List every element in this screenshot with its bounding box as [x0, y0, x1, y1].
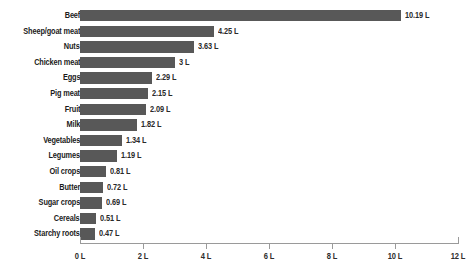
bar [80, 135, 122, 146]
category-label: Butter [59, 180, 80, 197]
bar-value-label: 3.63 L [198, 41, 218, 52]
category-label: Vegetables [43, 133, 80, 150]
bar-track: 4.25 L [80, 26, 458, 37]
bar-row: Eggs2.29 L [0, 70, 476, 86]
x-axis-tick-label: 4 L [201, 251, 212, 261]
bar-track: 0.69 L [80, 197, 458, 208]
bar-row: Oil crops0.81 L [0, 164, 476, 180]
bar-track: 1.34 L [80, 135, 458, 146]
bar [80, 197, 102, 208]
bar [80, 150, 117, 161]
bar [80, 166, 106, 177]
x-axis-tick [458, 237, 459, 244]
x-axis-tick [395, 243, 396, 249]
bar [80, 104, 146, 115]
x-axis-tick-label: 6 L [264, 251, 275, 261]
category-label: Cereals [54, 211, 80, 228]
bar-value-label: 1.82 L [141, 119, 161, 130]
bar-value-label: 2.15 L [152, 88, 172, 99]
bar [80, 213, 96, 224]
x-axis-tick [143, 243, 144, 249]
bar-track: 3.63 L [80, 41, 458, 52]
bar-value-label: 0.72 L [107, 182, 127, 193]
bar-row: Beef10.19 L [0, 8, 476, 24]
bar-value-label: 2.09 L [150, 104, 170, 115]
bar-row: Chicken meat3 L [0, 55, 476, 71]
bar [80, 119, 137, 130]
category-label: Fruit [64, 102, 80, 119]
category-label: Chicken meat [34, 55, 80, 72]
bar-row: Pig meat2.15 L [0, 86, 476, 102]
bar-value-label: 2.29 L [156, 72, 176, 83]
chart-plot-area: Beef10.19 LSheep/goat meat4.25 LNuts3.63… [0, 8, 476, 242]
bar [80, 182, 103, 193]
bar-track: 1.19 L [80, 150, 458, 161]
bar [80, 10, 401, 21]
bar-row: Vegetables1.34 L [0, 133, 476, 149]
x-axis-tick [332, 243, 333, 249]
bar [80, 88, 148, 99]
bar [80, 72, 152, 83]
bar [80, 26, 214, 37]
category-label: Sheep/goat meat [23, 24, 80, 41]
horizontal-bar-chart: Beef10.19 LSheep/goat meat4.25 LNuts3.63… [0, 0, 476, 275]
bar-value-label: 1.34 L [126, 135, 146, 146]
bar-value-label: 4.25 L [218, 26, 238, 37]
category-label: Starchy roots [34, 226, 80, 243]
bar-row: Starchy roots0.47 L [0, 226, 476, 242]
x-axis-tick [206, 243, 207, 249]
bar-track: 3 L [80, 57, 458, 68]
bar-value-label: 0.69 L [106, 197, 126, 208]
bar-track: 0.81 L [80, 166, 458, 177]
bar-value-label: 1.19 L [121, 150, 141, 161]
bar-track: 2.29 L [80, 72, 458, 83]
bar-row: Milk1.82 L [0, 117, 476, 133]
x-axis-tick-label: 2 L [138, 251, 149, 261]
bar-row: Legumes1.19 L [0, 148, 476, 164]
bar-value-label: 0.47 L [99, 228, 119, 239]
x-axis-tick [80, 237, 81, 244]
category-label: Sugar crops [38, 195, 80, 212]
bar [80, 57, 175, 68]
category-label: Legumes [49, 148, 80, 165]
x-axis-tick-label: 8 L [327, 251, 338, 261]
bar-track: 10.19 L [80, 10, 458, 21]
x-axis-tick [269, 243, 270, 249]
bar-track: 0.47 L [80, 228, 458, 239]
category-label: Milk [66, 117, 80, 134]
category-label: Beef [65, 8, 80, 25]
bar-row: Nuts3.63 L [0, 39, 476, 55]
bar-value-label: 0.51 L [100, 213, 120, 224]
x-axis-tick-label: 10 L [388, 251, 403, 261]
bar-value-label: 3 L [179, 57, 189, 68]
bar-row: Cereals0.51 L [0, 211, 476, 227]
category-label: Eggs [63, 70, 80, 87]
category-label: Nuts [64, 39, 80, 56]
bar-row: Sugar crops0.69 L [0, 195, 476, 211]
x-axis-tick-label: 12 L [451, 251, 466, 261]
bar-row: Butter0.72 L [0, 180, 476, 196]
bar-row: Fruit2.09 L [0, 102, 476, 118]
bar [80, 41, 194, 52]
bar-row: Sheep/goat meat4.25 L [0, 24, 476, 40]
bar-track: 2.09 L [80, 104, 458, 115]
bar-value-label: 10.19 L [405, 10, 429, 21]
bar-track: 1.82 L [80, 119, 458, 130]
bar-track: 0.51 L [80, 213, 458, 224]
bar-track: 0.72 L [80, 182, 458, 193]
bar-value-label: 0.81 L [110, 166, 130, 177]
category-label: Pig meat [50, 86, 80, 103]
bar [80, 228, 95, 239]
x-axis-tick-label: 0 L [75, 251, 86, 261]
bar-track: 2.15 L [80, 88, 458, 99]
category-label: Oil crops [49, 164, 80, 181]
